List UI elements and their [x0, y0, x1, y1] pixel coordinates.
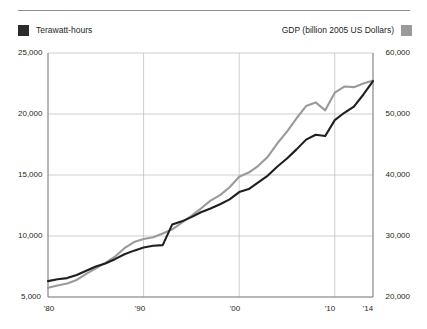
series-line-electricity	[48, 81, 373, 281]
gridlines	[48, 53, 373, 297]
chart-figure: Terawatt-hours GDP (billion 2005 US Doll…	[0, 0, 427, 329]
series-line-gdp	[48, 80, 373, 287]
plot-area	[0, 0, 427, 329]
